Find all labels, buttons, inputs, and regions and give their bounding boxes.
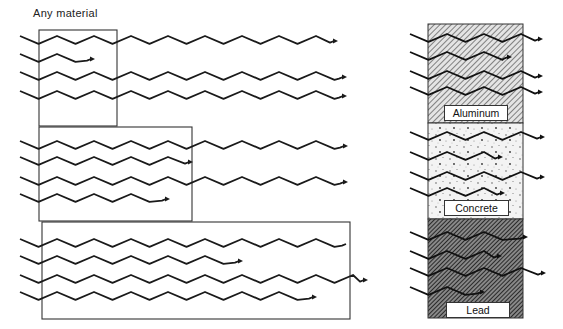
lead-label: Lead — [446, 302, 510, 318]
arrowhead-icon — [238, 259, 243, 264]
diagram-canvas — [0, 0, 563, 329]
radiation-wave — [20, 141, 348, 149]
arrowhead-icon — [342, 94, 347, 99]
arrowhead-icon — [333, 39, 338, 44]
arrowhead-icon — [538, 37, 543, 42]
radiation-wave — [20, 256, 243, 264]
radiation-wave — [20, 239, 346, 247]
radiation-wave — [20, 157, 193, 165]
right-panel-materials — [410, 24, 546, 318]
radiation-wave — [20, 177, 348, 185]
arrowhead-icon — [343, 180, 348, 185]
arrowhead-icon — [342, 75, 347, 80]
arrowhead-icon — [165, 197, 170, 202]
radiation-wave — [20, 292, 317, 300]
arrowhead-icon — [523, 235, 528, 240]
arrowhead-icon — [538, 90, 543, 95]
arrowhead-icon — [90, 57, 95, 62]
radiation-wave — [20, 91, 347, 99]
arrowhead-icon — [343, 144, 348, 149]
arrowhead-icon — [363, 278, 368, 283]
radiation-penetration-diagram: Any material Aluminum Concrete Lead — [0, 0, 563, 329]
box-thick — [42, 222, 350, 319]
radiation-wave — [20, 194, 170, 202]
arrowhead-icon — [540, 175, 545, 180]
arrowhead-icon — [312, 295, 317, 300]
radiation-wave — [20, 36, 338, 44]
concrete-label: Concrete — [444, 200, 509, 216]
left-panel-any-material — [20, 30, 368, 319]
any-material-title: Any material — [33, 7, 98, 19]
radiation-wave — [20, 275, 368, 283]
arrowhead-icon — [538, 74, 543, 79]
arrowhead-icon — [540, 135, 545, 140]
aluminum-label: Aluminum — [444, 105, 508, 121]
radiation-wave — [20, 54, 95, 62]
arrowhead-icon — [541, 271, 546, 276]
radiation-wave — [20, 72, 347, 80]
